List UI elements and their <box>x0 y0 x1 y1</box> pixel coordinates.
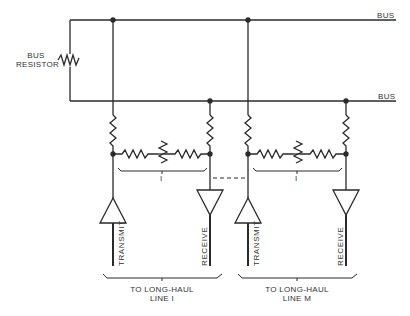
transmit-m-label: TRANSMIT <box>252 220 261 266</box>
receive-m-label: RECEIVE <box>336 227 345 266</box>
potentiometer-icon <box>293 141 302 163</box>
potentiometer-icon <box>158 141 167 163</box>
bus-bottom-label: BUS <box>378 92 395 101</box>
schematic-svg <box>0 0 410 316</box>
resistor-icon <box>113 150 158 158</box>
circuit-diagram: BUS BUS BUS RESISTOR I I TRANSMIT RECEIV… <box>0 0 410 316</box>
resistor-icon <box>245 115 251 154</box>
line-i-label-2: LINE I <box>112 294 212 303</box>
bus-resistor-icon <box>58 20 79 101</box>
bottom-bracket-m <box>238 274 357 281</box>
group-m-mark: I <box>295 174 298 183</box>
resistor-icon <box>207 115 213 154</box>
line-m-label-1: TO LONG-HAUL <box>247 285 347 294</box>
bus-top-label: BUS <box>377 11 394 20</box>
bottom-bracket-i <box>103 274 222 281</box>
transmit-amplifier-icon <box>100 198 126 223</box>
line-m-label-2: LINE M <box>247 294 347 303</box>
resistor-icon <box>165 150 210 158</box>
receive-amplifier-icon <box>197 190 223 215</box>
bus-resistor-label-line2: RESISTOR <box>16 60 59 69</box>
receive-amplifier-icon <box>333 190 359 215</box>
line-i-label-1: TO LONG-HAUL <box>112 285 212 294</box>
receive-i-label: RECEIVE <box>200 227 209 266</box>
resistor-icon <box>300 150 346 158</box>
transmit-amplifier-icon <box>235 198 261 223</box>
resistor-icon <box>343 115 349 154</box>
resistor-icon <box>248 150 293 158</box>
group-i-mark: I <box>160 174 163 183</box>
resistor-icon <box>110 115 116 154</box>
bus-resistor-label-line1: BUS <box>16 51 56 60</box>
transmit-i-label: TRANSMIT <box>117 220 126 266</box>
